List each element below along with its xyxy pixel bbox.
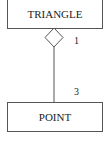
class-name: TRIANGLE (28, 8, 83, 20)
class-box-triangle: TRIANGLE (7, 0, 103, 29)
class-box-point: POINT (7, 102, 103, 132)
multiplicity-label-to: 3 (74, 86, 79, 97)
aggregation-diamond-icon (45, 28, 63, 47)
class-name: POINT (39, 111, 71, 123)
multiplicity-label-from: 1 (74, 35, 79, 46)
